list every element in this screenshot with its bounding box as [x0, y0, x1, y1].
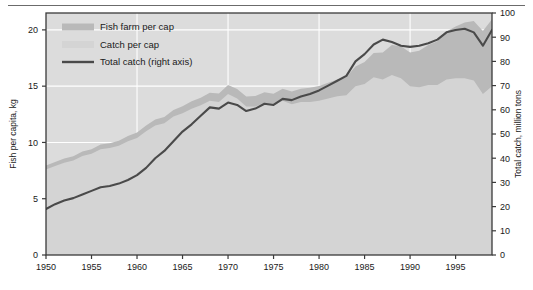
x-tick-label: 1950 — [36, 262, 56, 272]
y-tick-label-right: 20 — [500, 202, 510, 212]
fisheries-chart-svg: 1950195519601965197019751980198519901995… — [0, 0, 533, 290]
x-tick-label: 1970 — [218, 262, 238, 272]
legend-swatch-band — [62, 41, 94, 48]
y-tick-label-left: 20 — [28, 25, 38, 35]
y-tick-label-right: 60 — [500, 105, 510, 115]
x-tick-label: 1975 — [264, 262, 284, 272]
x-tick-label: 1995 — [446, 262, 466, 272]
y-axis-right-title: Total catch, million tons — [513, 90, 523, 178]
y-tick-label-right: 80 — [500, 57, 510, 67]
x-tick-label: 1965 — [173, 262, 193, 272]
y-tick-label-left: 10 — [28, 138, 38, 148]
x-tick-label: 1960 — [127, 262, 147, 272]
x-axis: 1950195519601965197019751980198519901995 — [36, 255, 466, 272]
x-tick-label: 1955 — [81, 262, 101, 272]
y-tick-label-right: 50 — [500, 129, 510, 139]
figure-root: 1950195519601965197019751980198519901995… — [0, 0, 533, 290]
legend-label: Catch per cap — [100, 39, 159, 50]
y-tick-label-right: 100 — [500, 8, 515, 18]
y-tick-label-right: 30 — [500, 178, 510, 188]
y-tick-label-right: 90 — [500, 33, 510, 43]
y-axis-right: 0102030405060708090100 — [492, 8, 515, 260]
y-tick-label-right: 10 — [500, 226, 510, 236]
y-tick-label-right: 0 — [500, 250, 505, 260]
chart-canvas: 1950195519601965197019751980198519901995… — [0, 0, 533, 290]
y-tick-label-right: 40 — [500, 154, 510, 164]
x-tick-label: 1980 — [309, 262, 329, 272]
y-axis-left-title: Fish per capita, kg — [8, 99, 18, 169]
y-tick-label-left: 5 — [33, 194, 38, 204]
x-tick-label: 1990 — [400, 262, 420, 272]
y-tick-label-right: 70 — [500, 81, 510, 91]
legend-label: Fish farm per cap — [100, 21, 174, 32]
y-axis-left: 05101520 — [28, 25, 46, 260]
y-tick-label-left: 15 — [28, 81, 38, 91]
legend-label: Total catch (right axis) — [100, 56, 192, 67]
y-tick-label-left: 0 — [33, 250, 38, 260]
legend-swatch-band — [62, 24, 94, 31]
x-tick-label: 1985 — [355, 262, 375, 272]
